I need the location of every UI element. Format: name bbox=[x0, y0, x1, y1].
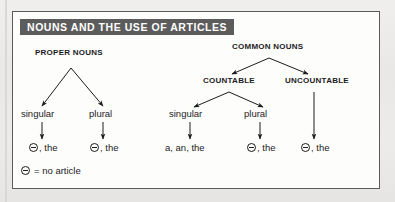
figure-title: NOUNS AND THE USE OF ARTICLES bbox=[20, 21, 227, 33]
article-proper-singular-label: , the bbox=[39, 142, 58, 153]
article-countable-singular-label: a, an, the bbox=[165, 142, 205, 153]
article-countable-plural: , the bbox=[247, 142, 276, 153]
edge-countable-to-singular bbox=[194, 92, 229, 107]
node-common-nouns: COMMON NOUNS bbox=[232, 42, 303, 51]
article-countable-singular: a, an, the bbox=[165, 142, 205, 153]
node-proper-plural: plural bbox=[89, 108, 112, 119]
edge-proper-to-singular bbox=[42, 68, 71, 106]
node-proper-singular: singular bbox=[21, 108, 54, 119]
edge-proper-to-plural bbox=[71, 68, 103, 106]
node-countable-singular: singular bbox=[169, 108, 202, 119]
tree-connectors bbox=[13, 12, 381, 190]
no-article-icon bbox=[247, 143, 256, 152]
article-uncountable-label: , the bbox=[311, 142, 330, 153]
article-countable-plural-label: , the bbox=[257, 142, 276, 153]
node-countable: COUNTABLE bbox=[203, 76, 255, 85]
article-proper-plural-label: , the bbox=[100, 142, 119, 153]
no-article-icon bbox=[29, 143, 38, 152]
article-proper-singular: , the bbox=[29, 142, 58, 153]
article-uncountable: , the bbox=[301, 142, 330, 153]
no-article-icon bbox=[90, 143, 99, 152]
no-article-icon bbox=[301, 143, 310, 152]
figure-box: NOUNS AND THE USE OF ARTICLES PROPER NOU… bbox=[12, 11, 380, 189]
node-uncountable: UNCOUNTABLE bbox=[285, 76, 349, 85]
legend-text: = no article bbox=[34, 165, 81, 176]
edge-common-to-countable bbox=[232, 58, 269, 74]
article-proper-plural: , the bbox=[90, 142, 119, 153]
figure-title-band: NOUNS AND THE USE OF ARTICLES bbox=[20, 19, 234, 35]
no-article-icon bbox=[21, 166, 30, 175]
node-proper-nouns: PROPER NOUNS bbox=[35, 48, 103, 57]
edge-countable-to-plural bbox=[229, 92, 263, 107]
legend: = no article bbox=[21, 165, 81, 176]
node-countable-plural: plural bbox=[244, 108, 267, 119]
edge-common-to-uncountable bbox=[269, 58, 308, 74]
